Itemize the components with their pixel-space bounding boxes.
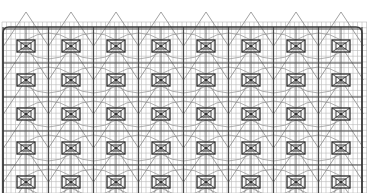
module-center-node (339, 44, 342, 47)
grid-module (62, 176, 80, 188)
grid-module (17, 142, 35, 154)
module-center-node (69, 146, 72, 149)
module-center-node (159, 112, 162, 115)
module-center-node (159, 44, 162, 47)
module-center-node (69, 112, 72, 115)
grid-module (287, 40, 305, 52)
grid-module (197, 142, 215, 154)
grid-module (197, 176, 215, 188)
grid-module (242, 40, 260, 52)
module-center-node (294, 146, 297, 149)
module-center-node (24, 112, 27, 115)
grid-module (107, 108, 125, 120)
module-center-node (249, 112, 252, 115)
grid-module (287, 108, 305, 120)
grid-module (17, 74, 35, 86)
module-center-node (204, 146, 207, 149)
grid-module (107, 176, 125, 188)
module-center-node (114, 78, 117, 81)
grid-module (152, 40, 170, 52)
grid-module (197, 40, 215, 52)
module-center-node (294, 112, 297, 115)
grid-module (152, 108, 170, 120)
grid-module (17, 40, 35, 52)
module-center-node (249, 78, 252, 81)
module-center-node (294, 44, 297, 47)
grid-module (332, 74, 350, 86)
module-center-node (204, 112, 207, 115)
module-center-node (249, 180, 252, 183)
module-center-node (69, 44, 72, 47)
grid-module (242, 74, 260, 86)
fine-grid-lines (2, 22, 367, 193)
module-center-node (69, 180, 72, 183)
grid-module (287, 176, 305, 188)
module-center-node (24, 180, 27, 183)
grid-module (107, 40, 125, 52)
grid-module (242, 108, 260, 120)
grid-plan-canvas (0, 0, 369, 193)
module-center-node (24, 146, 27, 149)
grid-module (62, 74, 80, 86)
grid-module (152, 176, 170, 188)
module-center-node (24, 44, 27, 47)
grid-module (107, 142, 125, 154)
grid-module (62, 40, 80, 52)
module-center-node (294, 78, 297, 81)
grid-module (332, 108, 350, 120)
module-center-node (339, 112, 342, 115)
module-center-node (114, 180, 117, 183)
grid-module (152, 74, 170, 86)
grid-module (332, 40, 350, 52)
grid-module (62, 142, 80, 154)
module-center-node (204, 44, 207, 47)
module-center-node (24, 78, 27, 81)
module-center-node (114, 112, 117, 115)
grid-module (242, 142, 260, 154)
grid-module (17, 176, 35, 188)
module-center-node (339, 78, 342, 81)
grid-module (107, 74, 125, 86)
grid-module (287, 142, 305, 154)
structural-grid-drawing (0, 0, 369, 193)
grid-module (287, 74, 305, 86)
module-center-node (294, 180, 297, 183)
grid-module (197, 108, 215, 120)
module-center-node (249, 146, 252, 149)
module-center-node (114, 146, 117, 149)
module-center-node (69, 78, 72, 81)
module-center-node (114, 44, 117, 47)
module-center-node (204, 78, 207, 81)
grid-module (332, 142, 350, 154)
grid-module (242, 176, 260, 188)
module-center-node (339, 146, 342, 149)
grid-module (152, 142, 170, 154)
grid-module (17, 108, 35, 120)
grid-module (332, 176, 350, 188)
module-center-node (159, 180, 162, 183)
module-center-node (339, 180, 342, 183)
module-center-node (159, 146, 162, 149)
grid-module (62, 108, 80, 120)
module-center-node (204, 180, 207, 183)
module-center-node (249, 44, 252, 47)
module-center-node (159, 78, 162, 81)
grid-module (197, 74, 215, 86)
